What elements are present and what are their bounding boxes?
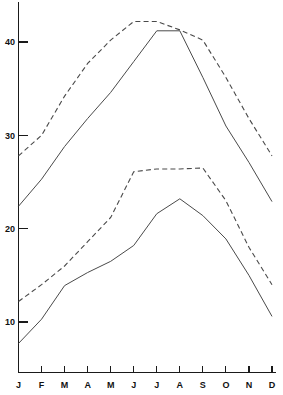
chart-plot-area: 10203040 JFMAMJJASOND bbox=[0, 0, 283, 395]
x-tick-label-o-9: O bbox=[222, 380, 229, 390]
series-line-upper-solid bbox=[19, 31, 273, 206]
y-tick-label: 30 bbox=[5, 131, 15, 141]
y-tick-label-group: 10203040 bbox=[5, 37, 15, 327]
series-line-lower-solid bbox=[19, 199, 273, 344]
y-tick-label: 10 bbox=[5, 317, 15, 327]
y-tick-group bbox=[19, 42, 29, 322]
x-tick-label-group: JFMAMJJASOND bbox=[16, 380, 276, 390]
axes-group bbox=[19, 2, 277, 373]
x-tick-label-j-0: J bbox=[16, 380, 21, 390]
x-tick-label-j-6: J bbox=[154, 380, 159, 390]
line-chart: 10203040 JFMAMJJASOND bbox=[0, 0, 283, 395]
x-tick-label-d-11: D bbox=[269, 380, 276, 390]
data-series-group bbox=[19, 21, 273, 343]
x-tick-label-a-7: A bbox=[177, 380, 184, 390]
x-tick-label-s-8: S bbox=[200, 380, 206, 390]
x-tick-label-j-5: J bbox=[131, 380, 136, 390]
x-tick-label-n-10: N bbox=[246, 380, 253, 390]
y-tick-label: 20 bbox=[5, 224, 15, 234]
series-line-lower-dashed bbox=[19, 168, 273, 301]
x-tick-label-a-3: A bbox=[84, 380, 91, 390]
x-tick-group bbox=[19, 366, 273, 373]
y-tick-label: 40 bbox=[5, 37, 15, 47]
x-tick-label-m-2: M bbox=[61, 380, 69, 390]
x-tick-label-m-4: M bbox=[107, 380, 115, 390]
x-tick-label-f-1: F bbox=[39, 380, 45, 390]
series-line-upper-dashed bbox=[19, 21, 273, 155]
